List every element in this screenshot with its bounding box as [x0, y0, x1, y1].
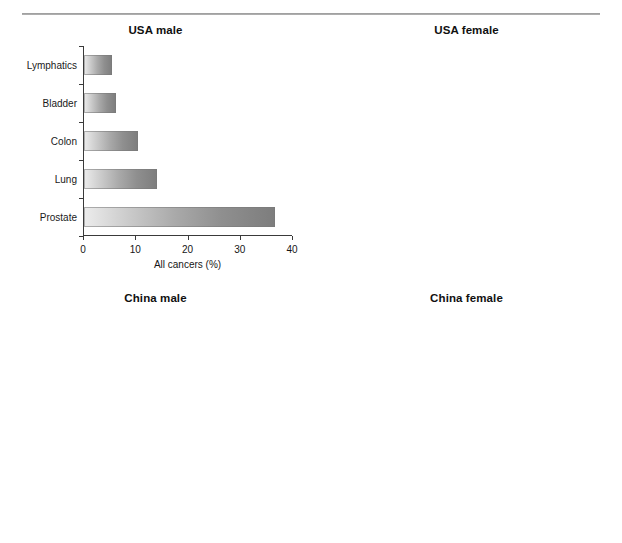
chart-title-china-female: China female	[311, 292, 622, 304]
bar	[84, 207, 275, 227]
y-axis-category-label: Lymphatics	[27, 60, 77, 71]
x-axis-tick-label: 20	[182, 244, 193, 255]
y-axis-tick	[79, 160, 83, 161]
x-axis-tick	[135, 236, 136, 240]
bar	[84, 55, 112, 75]
chart-title-china-male: China male	[0, 292, 311, 304]
panel-usa-female: USA female All cancers (%) 010203040Ovar…	[311, 0, 622, 272]
y-axis-tick	[79, 46, 83, 47]
panel-china-male: China male All cancers (%) 0510152025Col…	[0, 272, 311, 543]
x-axis-tick-label: 30	[234, 244, 245, 255]
figure-page: USA male All cancers (%) 010203040Lympha…	[0, 0, 622, 543]
y-axis-category-label: Bladder	[43, 98, 77, 109]
bar	[84, 93, 116, 113]
y-axis-tick	[79, 122, 83, 123]
bar	[84, 169, 157, 189]
x-axis-tick	[83, 236, 84, 240]
y-axis-category-label: Prostate	[40, 212, 77, 223]
y-axis-tick	[79, 84, 83, 85]
y-axis-tick	[79, 198, 83, 199]
x-axis-tick-label: 10	[130, 244, 141, 255]
y-axis-category-label: Colon	[51, 136, 77, 147]
chart-title-usa-female: USA female	[311, 24, 622, 36]
panel-china-female: China female All cancers (%) 05101520253…	[311, 272, 622, 543]
x-axis-tick	[240, 236, 241, 240]
x-axis-tick-label: 0	[80, 244, 86, 255]
x-axis-tick	[188, 236, 189, 240]
bar	[84, 131, 138, 151]
plot-area-usa-male: All cancers (%) 010203040LymphaticsBladd…	[83, 46, 292, 236]
chart-title-usa-male: USA male	[0, 24, 311, 36]
panel-usa-male: USA male All cancers (%) 010203040Lympha…	[0, 0, 311, 272]
x-axis-title: All cancers (%)	[83, 259, 292, 270]
y-axis-tick	[79, 236, 83, 237]
y-axis-category-label: Lung	[55, 174, 77, 185]
x-axis-tick-label: 40	[286, 244, 297, 255]
x-axis-tick	[292, 236, 293, 240]
chart-grid: USA male All cancers (%) 010203040Lympha…	[0, 0, 622, 543]
